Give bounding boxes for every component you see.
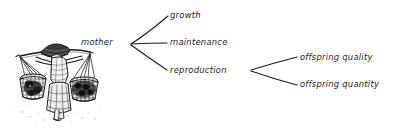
connector-mother-reproduction — [131, 45, 167, 70]
legs-icon — [53, 110, 64, 121]
connector-reproduction-quantity — [251, 71, 297, 85]
figure-illustration — [16, 44, 101, 124]
node-offspring-quality: offspring quality — [300, 53, 373, 61]
connector-mother-growth — [131, 16, 168, 44]
skirt-icon — [47, 82, 72, 113]
node-reproduction: reproduction — [170, 66, 227, 74]
node-offspring-quantity: offspring quantity — [300, 80, 379, 88]
node-maintenance: maintenance — [170, 38, 228, 46]
node-growth: growth — [170, 11, 201, 19]
connector-reproduction-quality — [251, 57, 297, 70]
left-basket-icon — [19, 73, 47, 100]
right-basket-icon — [69, 76, 99, 102]
maternal-allocation-figure: mother growth maintenance reproduction o… — [0, 0, 403, 129]
connector-mother-maintenance — [131, 43, 167, 44]
node-mother: mother — [81, 38, 113, 46]
